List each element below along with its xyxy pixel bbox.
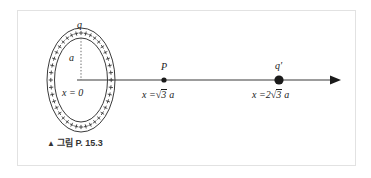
plus-charge-icon (79, 31, 83, 35)
plus-charge-icon (66, 36, 69, 39)
p-pos-prefix: x = (142, 89, 156, 100)
plus-charge-icon (106, 57, 110, 61)
plus-charge-icon (88, 33, 92, 37)
plus-charge-icon (108, 92, 112, 96)
plus-charge-icon (109, 71, 113, 75)
plus-charge-icon (88, 123, 92, 127)
axis-arrowhead-icon (330, 76, 341, 85)
plus-charge-icon (101, 45, 105, 49)
figure-drawing (0, 0, 371, 178)
plus-charge-icon (58, 45, 62, 49)
point-qprime-label: q′ (275, 61, 282, 71)
plus-charge-icon (50, 63, 54, 67)
plus-charge-icon (55, 50, 59, 54)
point-qprime-dot (274, 75, 283, 84)
plus-charge-icon (74, 32, 78, 36)
plus-charge-icon (70, 123, 74, 127)
plus-charge-icon (52, 99, 56, 103)
p-pos-sqrt: √3 (156, 89, 167, 100)
plus-charge-icon (108, 63, 112, 67)
plus-charge-icon (55, 106, 59, 110)
caption-triangle-icon: ▲ (47, 139, 55, 148)
plus-charge-icon (84, 124, 88, 128)
plus-charge-icon (101, 111, 105, 115)
caption-text: 그림 P. 15.3 (57, 138, 103, 148)
plus-charge-icon (97, 116, 100, 119)
point-p-label: P (161, 62, 167, 72)
plus-charge-icon (62, 40, 65, 43)
plus-charge-icon (109, 78, 113, 82)
figure-container: q a x = 0 P x =√3 a q′ x =2√3 a ▲그림 P. 1… (0, 0, 371, 178)
plus-charge-icon (106, 99, 110, 103)
p-pos-suffix: a (169, 89, 174, 100)
plus-charge-icon (66, 120, 69, 123)
figure-caption: ▲그림 P. 15.3 (47, 139, 103, 148)
plus-charge-icon (49, 71, 53, 75)
ring-radius-label: a (69, 53, 74, 63)
plus-charge-icon (109, 85, 113, 89)
plus-charge-icon (79, 125, 83, 129)
plus-charge-icon (49, 78, 53, 82)
p-pos-radicand: 3 (161, 89, 167, 100)
plus-charge-icon (58, 111, 62, 115)
ring-charge-label: q (77, 20, 82, 30)
plus-charge-icon (74, 124, 78, 128)
plus-charge-icon (49, 85, 53, 89)
plus-charge-icon (97, 40, 100, 43)
plus-charge-icon (93, 120, 96, 123)
point-p-position-label: x =√3 a (142, 89, 174, 100)
qp-pos-prefix: x = (252, 89, 266, 100)
plus-charge-icon (70, 33, 74, 37)
qp-pos-radicand: 3 (276, 89, 282, 100)
plus-charge-icon (50, 92, 54, 96)
ring-position-label: x = 0 (62, 88, 83, 98)
plus-charge-icon (104, 106, 108, 110)
plus-charge-icon (104, 50, 108, 54)
qp-pos-suffix: a (284, 89, 289, 100)
plus-charge-icon (93, 36, 96, 39)
point-p-dot (161, 77, 166, 82)
plus-charge-icon (84, 32, 88, 36)
plus-charge-icon (62, 116, 65, 119)
point-qprime-position-label: x =2√3 a (252, 89, 289, 100)
plus-charge-icon (52, 57, 56, 61)
qp-pos-sqrt: √3 (271, 89, 282, 100)
